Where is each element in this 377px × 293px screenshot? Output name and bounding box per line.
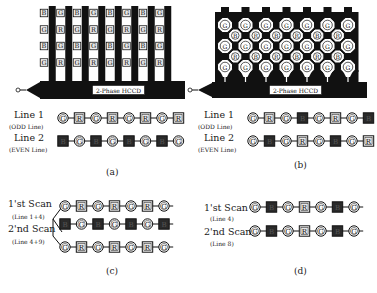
svg-text:G: G	[176, 137, 182, 146]
hex-pixel-R: R	[271, 51, 282, 62]
pixel-G: G	[93, 242, 103, 252]
svg-text:G: G	[128, 243, 134, 252]
svg-text:G: G	[252, 203, 258, 212]
hex-pixel-G: G	[321, 40, 334, 53]
pixel-R: R	[330, 113, 340, 123]
svg-text:G: G	[349, 114, 355, 123]
svg-text:R: R	[333, 114, 339, 123]
vccd-column	[164, 6, 171, 82]
hex-pixel-G: G	[321, 61, 334, 74]
hex-pixel-G: G	[219, 19, 232, 32]
svg-text:G: G	[264, 22, 269, 29]
pixel-G: G	[281, 136, 291, 146]
figure: BGBGBGBGGRGRGRGRBGBGBGBGGRGRGRGR2-Phase …	[0, 0, 377, 293]
svg-text:G: G	[126, 114, 132, 123]
panel-d-scan2-sub: (Line 8)	[210, 240, 234, 247]
panel-b-line1-seq: GRGBGRGB	[248, 113, 374, 123]
array-pixel-G: G	[139, 59, 147, 67]
panel-a-line2-sub: (EVEN Line)	[9, 146, 47, 153]
hex-pixel-B: B	[230, 30, 241, 41]
array-pixel-G: G	[57, 9, 65, 17]
array-pixel-R: R	[90, 26, 98, 34]
svg-text:G: G	[77, 137, 83, 146]
panel-c-scan1-label: 1'st Scan	[8, 198, 52, 209]
svg-text:B: B	[335, 227, 340, 236]
svg-text:G: G	[318, 203, 324, 212]
svg-text:G: G	[284, 64, 289, 71]
panel-a-line1-label: Line 1	[14, 109, 44, 120]
hex-pixel-G: G	[260, 19, 273, 32]
hex-pixel-R: R	[291, 30, 302, 41]
array-pixel-G: G	[123, 9, 131, 17]
vccd-column	[148, 6, 155, 82]
array-pixel-B: B	[106, 9, 114, 17]
svg-text:G: G	[250, 114, 256, 123]
hex-pixel-G: G	[321, 19, 334, 32]
svg-text:B: B	[60, 137, 65, 146]
svg-text:G: G	[161, 243, 167, 252]
svg-text:G: G	[305, 22, 310, 29]
pixel-G: G	[107, 136, 117, 146]
hex-pixel-R: R	[332, 30, 343, 41]
hex-pixel-B: B	[291, 51, 302, 62]
pixel-R: R	[140, 113, 150, 123]
vccd-column	[82, 6, 89, 82]
svg-text:G: G	[252, 227, 258, 236]
svg-text:B: B	[42, 42, 47, 50]
pixel-R: R	[142, 242, 152, 252]
array-pixel-B: B	[106, 42, 114, 50]
panel-c-row2: BGBGBGB	[60, 219, 173, 229]
svg-text:R: R	[267, 114, 273, 123]
svg-text:R: R	[112, 202, 118, 211]
array-pixel-G: G	[40, 59, 48, 67]
pixel-R: R	[299, 202, 309, 212]
pixel-G: G	[60, 242, 70, 252]
pixel-G: G	[93, 201, 103, 211]
pixel-R: R	[76, 242, 86, 252]
svg-text:G: G	[283, 137, 289, 146]
panel-c-caption: (c)	[106, 266, 118, 276]
pixel-R: R	[76, 201, 86, 211]
svg-text:G: G	[110, 137, 116, 146]
hccd-label: 2-Phase HCCD	[96, 87, 141, 94]
panel-c-row1: GRGRGRG	[60, 201, 173, 211]
svg-text:B: B	[254, 53, 259, 60]
svg-text:R: R	[366, 137, 372, 146]
panel-a-line1-seq: GRGRGRGR	[58, 113, 184, 123]
svg-text:B: B	[128, 220, 133, 229]
hex-pixel-G: G	[239, 61, 252, 74]
pixel-R: R	[74, 113, 84, 123]
panel-a-line1-sub: (ODD Line)	[9, 123, 43, 130]
svg-text:R: R	[145, 202, 151, 211]
svg-text:B: B	[62, 220, 67, 229]
pixel-G: G	[314, 113, 324, 123]
svg-text:B: B	[141, 42, 146, 50]
hex-pixel-R: R	[230, 51, 241, 62]
panel-c-scan1-sub: (Line 1+4)	[12, 213, 45, 220]
pixel-G: G	[91, 113, 101, 123]
svg-text:G: G	[91, 9, 96, 17]
array-pixel-G: G	[156, 9, 164, 17]
pixel-G: G	[159, 201, 169, 211]
svg-text:R: R	[112, 243, 118, 252]
hex-pixel-G: G	[219, 40, 232, 53]
svg-text:R: R	[253, 32, 258, 39]
pixel-B: B	[157, 136, 167, 146]
svg-text:G: G	[91, 42, 96, 50]
panel-c-scan2-label: 2'nd Scan	[8, 223, 56, 234]
vccd-column	[98, 6, 105, 82]
svg-text:R: R	[302, 203, 308, 212]
pixel-B: B	[60, 219, 70, 229]
panel-b-line2-sub: (EVEN Line)	[198, 146, 236, 153]
svg-text:G: G	[264, 43, 269, 50]
svg-text:G: G	[157, 9, 162, 17]
svg-text:B: B	[274, 32, 279, 39]
svg-text:G: G	[250, 137, 256, 146]
svg-text:B: B	[333, 137, 338, 146]
array-pixel-G: G	[106, 26, 114, 34]
panel-a-hccd: 2-Phase HCCD	[16, 81, 185, 99]
svg-text:G: G	[346, 64, 351, 71]
svg-text:G: G	[95, 202, 101, 211]
hex-pixel-G: G	[239, 40, 252, 53]
pixel-R: R	[142, 201, 152, 211]
